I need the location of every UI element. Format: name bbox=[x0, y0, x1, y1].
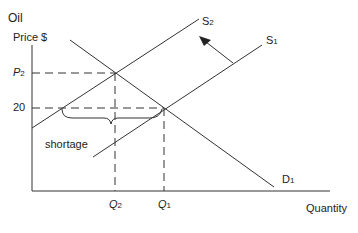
d1-sub: 1 bbox=[290, 176, 294, 185]
q2-sub: 2 bbox=[118, 201, 122, 210]
shift-arrow-line bbox=[206, 42, 233, 63]
q2-label: Q2 bbox=[109, 199, 122, 210]
s1-sub: 1 bbox=[273, 37, 277, 46]
price-20-label: 20 bbox=[13, 102, 25, 113]
x-axis-title: Quantity bbox=[306, 203, 347, 214]
p2-label: P2 bbox=[13, 67, 25, 78]
demand-curve-d1 bbox=[70, 40, 274, 187]
q1-main: Q bbox=[158, 198, 167, 210]
supply-demand-diagram bbox=[0, 0, 358, 233]
d1-main: D bbox=[282, 173, 290, 185]
s2-sub: 2 bbox=[209, 18, 213, 27]
y-axis-title-line1: Oil bbox=[8, 12, 23, 24]
d1-label: D1 bbox=[282, 174, 294, 185]
q1-label: Q1 bbox=[158, 199, 171, 210]
q2-main: Q bbox=[109, 198, 118, 210]
s2-label: S2 bbox=[202, 16, 214, 27]
shortage-label: shortage bbox=[45, 139, 88, 150]
p2-sub: 2 bbox=[20, 69, 24, 78]
y-axis-title-line2: Price $ bbox=[13, 32, 47, 43]
q1-sub: 1 bbox=[167, 201, 171, 210]
supply-curve-s1 bbox=[93, 45, 262, 157]
s1-label: S1 bbox=[266, 35, 278, 46]
